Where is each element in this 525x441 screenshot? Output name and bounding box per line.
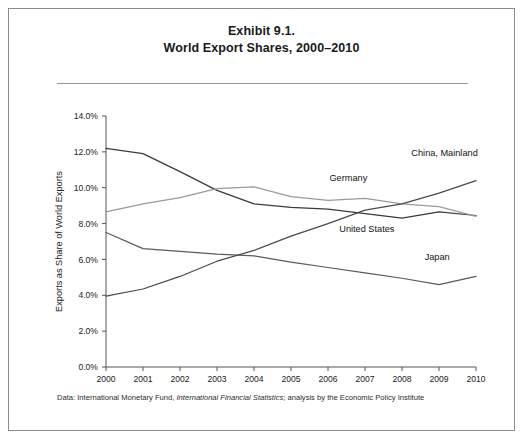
plot-area: 0.0%2.0%4.0%6.0%8.0%10.0%12.0%14.0%20002…	[9, 95, 516, 395]
series-label-china-mainland: China, Mainland	[411, 148, 477, 158]
x-axis-tick-label: 2007	[355, 374, 374, 384]
y-axis-tick-label: 14.0%	[74, 111, 99, 121]
y-axis-tick-label: 0.0%	[78, 362, 98, 372]
source-publication-italic: International Financial Statistics	[176, 393, 283, 402]
chart-title-line-2: World Export Shares, 2000–2010	[9, 40, 514, 57]
y-axis-tick-label: 12.0%	[74, 147, 99, 157]
line-chart-svg: 0.0%2.0%4.0%6.0%8.0%10.0%12.0%14.0%20002…	[9, 95, 516, 395]
x-axis-tick-label: 2008	[392, 374, 411, 384]
y-axis-tick-label: 4.0%	[78, 290, 98, 300]
x-axis-tick-label: 2000	[96, 374, 115, 384]
source-note: Data: International Monetary Fund, Inter…	[57, 392, 477, 403]
chart-title-block: Exhibit 9.1. World Export Shares, 2000–2…	[9, 23, 514, 57]
series-line-japan	[106, 233, 476, 285]
source-suffix: ; analysis by the Economic Policy Instit…	[283, 393, 424, 402]
x-axis-tick-label: 2004	[244, 374, 263, 384]
x-axis-tick-label: 2002	[170, 374, 189, 384]
figure-frame: Exhibit 9.1. World Export Shares, 2000–2…	[8, 8, 515, 431]
series-line-germany	[106, 187, 476, 217]
x-axis-tick-label: 2005	[281, 374, 300, 384]
chart-title-line-1: Exhibit 9.1.	[9, 23, 514, 40]
y-axis-tick-label: 2.0%	[78, 326, 98, 336]
source-prefix: Data: International Monetary Fund,	[57, 393, 176, 402]
x-axis-tick-label: 2001	[133, 374, 152, 384]
y-axis-tick-label: 10.0%	[74, 183, 99, 193]
y-axis-tick-label: 8.0%	[78, 219, 98, 229]
y-axis-tick-label: 6.0%	[78, 255, 98, 265]
y-axis-title: Exports as Share of World Exports	[54, 171, 64, 312]
series-label-japan: Japan	[425, 252, 450, 262]
x-axis-tick-label: 2009	[429, 374, 448, 384]
x-axis-tick-label: 2003	[207, 374, 226, 384]
x-axis-tick-label: 2006	[318, 374, 337, 384]
series-line-china-mainland	[106, 181, 476, 297]
series-line-united-states	[106, 148, 476, 218]
series-label-germany: Germany	[329, 173, 367, 183]
x-axis-tick-label: 2010	[466, 374, 485, 384]
series-label-united-states: United States	[339, 224, 395, 234]
title-divider-rule	[57, 83, 468, 84]
